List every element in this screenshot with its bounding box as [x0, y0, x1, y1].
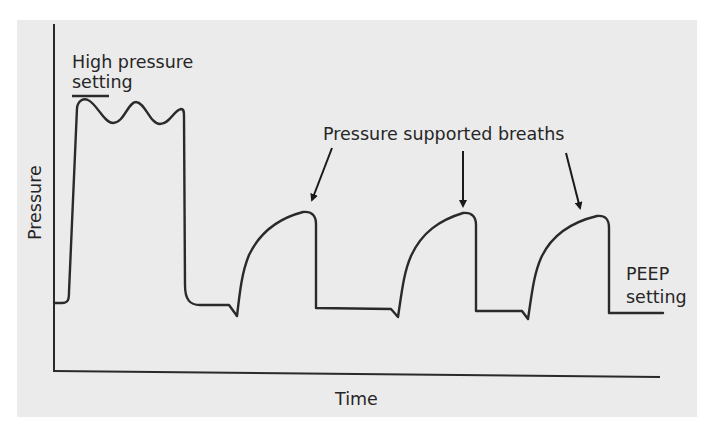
arrow-breath-1-icon	[312, 148, 332, 200]
peep-label-line1: PEEP	[626, 264, 669, 284]
arrows	[312, 148, 580, 208]
ventilation-diagram: Pressure Time High pressure setting Pres…	[0, 0, 716, 429]
arrow-breath-3-icon	[566, 153, 580, 208]
y-axis-label: Pressure	[25, 165, 45, 240]
x-axis	[53, 371, 660, 377]
pressure-supported-label: Pressure supported breaths	[323, 124, 564, 144]
x-axis-label: Time	[334, 389, 378, 409]
high-pressure-label-line1: High pressure	[72, 52, 193, 72]
high-pressure-label-line2: setting	[72, 72, 133, 92]
peep-label-line2: setting	[626, 287, 687, 307]
axes	[53, 24, 660, 377]
